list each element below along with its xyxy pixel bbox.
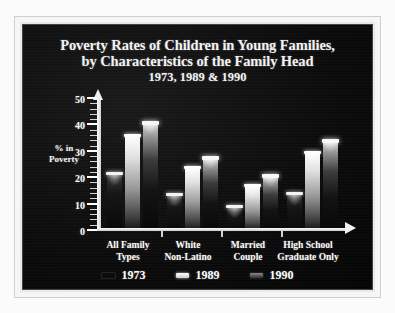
legend-label: 1989 <box>196 268 220 283</box>
legend-label: 1990 <box>270 268 294 283</box>
legend-label: 1973 <box>122 268 146 283</box>
legend-item-1973[interactable]: 1973 <box>102 268 146 283</box>
category-label-line: High School <box>275 240 341 252</box>
x-axis-category-label: MarriedCouple <box>215 240 281 263</box>
x-axis-category-label: All FamilyTypes <box>95 240 161 263</box>
x-axis-category-labels: All FamilyTypesWhiteNon-LatinoMarriedCou… <box>23 25 372 289</box>
category-label-line: Non-Latino <box>155 252 221 264</box>
legend-swatch-icon <box>102 273 115 278</box>
legend-item-1990[interactable]: 1990 <box>250 268 294 283</box>
category-label-line: Couple <box>215 252 281 264</box>
chart-legend: 197319891990 <box>23 265 372 285</box>
category-label-line: Graduate Only <box>275 252 341 264</box>
x-axis-category-label: WhiteNon-Latino <box>155 240 221 263</box>
x-axis-category-label: High SchoolGraduate Only <box>275 240 341 263</box>
category-label-line: All Family <box>95 240 161 252</box>
legend-swatch-icon <box>250 273 263 278</box>
category-label-line: White <box>155 240 221 252</box>
legend-item-1989[interactable]: 1989 <box>176 268 220 283</box>
chart-figure: Poverty Rates of Children in Young Famil… <box>0 0 395 313</box>
category-label-line: Married <box>215 240 281 252</box>
category-label-line: Types <box>95 252 161 264</box>
plot-area: Poverty Rates of Children in Young Famil… <box>23 25 372 289</box>
legend-swatch-icon <box>176 273 189 278</box>
